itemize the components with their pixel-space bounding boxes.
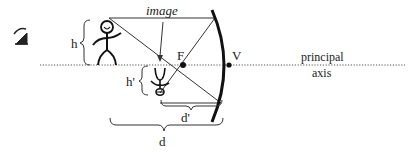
vertex-label: V xyxy=(232,48,242,63)
image-label: image xyxy=(146,3,178,18)
principal-axis-label-line1: principal xyxy=(301,50,344,64)
image-figure xyxy=(151,68,169,95)
rays xyxy=(109,18,221,103)
object-height-brace xyxy=(80,20,90,65)
object-figure xyxy=(93,21,121,65)
object-height-label: h xyxy=(71,36,78,51)
image-distance-label: d' xyxy=(181,110,190,125)
image-distance-brace xyxy=(161,100,222,110)
mirror-diagram: image F V principal axis h h' d' d xyxy=(0,0,409,152)
principal-axis-label-line2: axis xyxy=(312,66,332,80)
image-height-brace xyxy=(139,66,148,95)
object-distance-brace xyxy=(110,118,223,131)
image-height-label: h' xyxy=(126,74,135,89)
focal-point-label: F xyxy=(177,48,184,63)
eye-icon xyxy=(14,29,28,44)
vertex-point xyxy=(226,62,231,67)
concave-mirror xyxy=(212,10,224,122)
object-distance-label: d xyxy=(159,134,166,149)
image-pointer-arrow xyxy=(157,22,163,62)
